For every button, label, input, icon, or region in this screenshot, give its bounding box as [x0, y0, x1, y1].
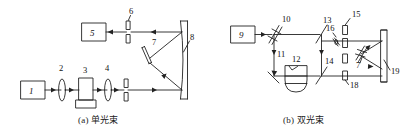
slit-lower-upper-jaw	[125, 79, 129, 88]
slit-16-aperture	[343, 39, 348, 48]
arrowhead-beam-3	[97, 88, 102, 93]
slit-6-lower-jaw	[127, 35, 131, 44]
label-10: 10	[282, 14, 291, 24]
mirror-7-back	[142, 48, 149, 64]
leader-15	[345, 19, 350, 26]
slit-6-upper-jaw	[127, 21, 131, 30]
leader-6	[128, 16, 130, 21]
sample-cell-stand-3	[76, 100, 96, 108]
label-8: 8	[190, 32, 194, 42]
label-19: 19	[391, 66, 400, 76]
label-7: 7	[152, 37, 156, 47]
label-4: 4	[105, 63, 110, 73]
flask-12-detail	[289, 66, 298, 70]
arrowhead-beam-8	[108, 30, 114, 35]
leader-18	[345, 80, 348, 85]
sample-flask-12	[285, 66, 307, 92]
slit-lower-lower-jaw	[125, 93, 129, 102]
label-16: 16	[326, 23, 335, 33]
arrowhead-beam-11	[272, 71, 278, 77]
slit-15	[343, 26, 348, 35]
label-14: 14	[325, 56, 334, 66]
arrowhead-beam-1	[51, 88, 56, 93]
label-18: 18	[350, 80, 359, 90]
leader-16	[333, 33, 336, 37]
arrowhead-beam-2	[69, 88, 74, 93]
panel-b-caption: (b) 双光束	[283, 113, 324, 126]
mirror-7-face	[145, 47, 152, 63]
arrowhead-beam-14	[368, 64, 374, 69]
slit-17-aperture	[343, 54, 348, 63]
arrowhead-beam-4	[114, 88, 119, 93]
label-2: 2	[59, 63, 63, 73]
label-12: 12	[292, 54, 301, 64]
label-6: 6	[129, 6, 133, 16]
label-15: 15	[352, 9, 361, 19]
slit-18	[343, 71, 348, 80]
diagram-canvas: 1 2 3 4 5 6 7 8 9 10 11 12 13 14 15 16 7…	[0, 0, 416, 134]
beam-8-to-7	[150, 63, 182, 90]
arrowhead-beam-10	[272, 50, 277, 55]
arrowhead-beam-5	[152, 88, 157, 93]
label-3: 3	[83, 65, 87, 75]
panel-a-caption: (a) 单光束	[78, 113, 119, 126]
arrowhead-beam-12	[319, 50, 324, 55]
plane-mirror-19	[381, 30, 387, 82]
leader-8	[184, 41, 190, 52]
sample-cell-3	[79, 78, 93, 100]
optical-diagram-figure: 1 2 3 4 5 6 7 8 9 10 11 12 13 14 15 16 7…	[0, 0, 416, 134]
arrowhead-beam-7	[151, 30, 157, 35]
label-11: 11	[277, 49, 285, 59]
chopper-17-tick-a	[356, 54, 366, 57]
label-1: 1	[29, 86, 34, 96]
label-5: 5	[90, 28, 95, 38]
arrowhead-beam-9	[261, 32, 266, 37]
beam-17-to-19-upper	[361, 41, 382, 54]
label-17: 7	[356, 60, 360, 70]
mirror-7-cap-top	[142, 47, 145, 48]
label-9: 9	[239, 30, 244, 40]
